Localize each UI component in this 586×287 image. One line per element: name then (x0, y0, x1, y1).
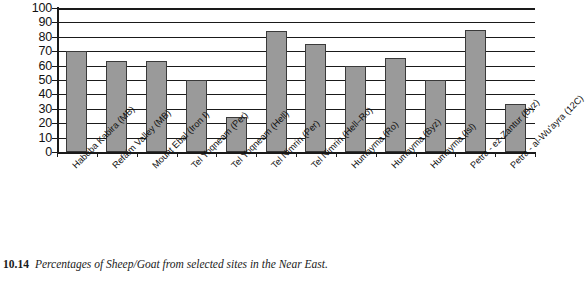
x-axis-category-labels: Habuba Kabira (MB)Refaim Valley (MB)Moun… (0, 158, 543, 250)
gridline-70 (57, 51, 535, 52)
y-tick-label-80: 80 (0, 31, 52, 44)
bar (66, 51, 87, 152)
y-tick-label-30: 30 (0, 103, 52, 116)
y-tick-label-0: 0 (0, 146, 52, 159)
gridline-80 (57, 37, 535, 38)
gridline-100 (57, 8, 535, 10)
figure-caption: 10.14Percentages of Sheep/Goat from sele… (3, 258, 533, 270)
caption-number: 10.14 (3, 258, 29, 270)
gridline-90 (57, 22, 535, 23)
x-tick-mark (216, 152, 217, 157)
y-tick-label-60: 60 (0, 60, 52, 73)
x-tick-mark (57, 152, 58, 157)
x-tick-mark (455, 152, 456, 157)
gridline-60 (57, 66, 535, 67)
x-tick-mark (336, 152, 337, 157)
gridline-40 (57, 94, 535, 95)
y-tick-label-40: 40 (0, 88, 52, 101)
gridline-20 (57, 123, 535, 124)
x-tick-mark (495, 152, 496, 157)
x-tick-mark (416, 152, 417, 157)
x-tick-mark (535, 152, 536, 157)
y-tick-label-10: 10 (0, 132, 52, 145)
y-tick-label-100: 100 (0, 2, 52, 15)
x-tick-mark (256, 152, 257, 157)
y-tick-label-70: 70 (0, 45, 52, 58)
y-axis-tick-labels: 1009080706050403020100 (0, 0, 52, 160)
x-tick-mark (177, 152, 178, 157)
gridline-50 (57, 80, 535, 81)
x-tick-mark (137, 152, 138, 157)
x-tick-mark (97, 152, 98, 157)
y-tick-label-50: 50 (0, 74, 52, 87)
y-tick-label-90: 90 (0, 16, 52, 29)
caption-text: Percentages of Sheep/Goat from selected … (35, 258, 328, 270)
x-tick-mark (296, 152, 297, 157)
y-tick-label-20: 20 (0, 117, 52, 130)
x-tick-mark (376, 152, 377, 157)
